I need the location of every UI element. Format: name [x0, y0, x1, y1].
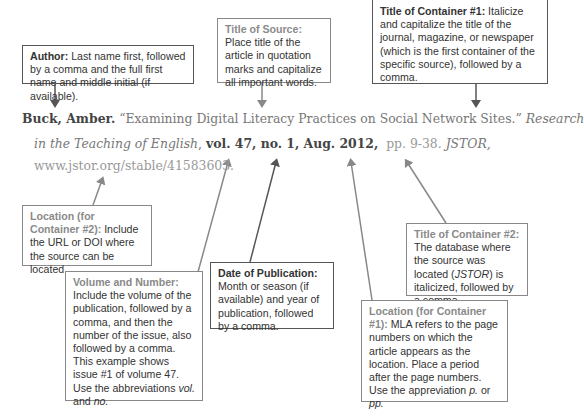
citation-container-start: Research [526, 111, 584, 126]
location-container-2-annotation: Location (for Container #2): Include the… [22, 205, 152, 266]
date-of-publication-text: Month or season (if available) and year … [218, 280, 319, 332]
title-container-1-label: Title of Container #1: [380, 5, 485, 17]
citation-container-end: in the Teaching of English [34, 136, 198, 151]
volume-abbrev: vol. [178, 382, 195, 394]
volume-number-text: Include the volume of the publication, f… [73, 289, 191, 393]
title-of-source-label: Title of Source: [225, 23, 302, 35]
number-abbrev: no. [94, 395, 109, 407]
citation-author: Buck, Amber. [22, 111, 115, 126]
jstor-italic: JSTOR [455, 268, 490, 280]
citation-pages: pp. 9-38. [378, 136, 441, 151]
citation-url: www.jstor.org/stable/41583603. [34, 158, 234, 173]
title-of-source-annotation: Title of Source: Place title of the arti… [217, 18, 331, 83]
title-container-1-annotation: Title of Container #1: Italicize and cap… [372, 0, 548, 84]
location2-arrow [93, 180, 102, 205]
date-of-publication-label: Date of Publication: [218, 267, 317, 279]
citation-volume-number: vol. 47, no. 1, [206, 136, 299, 151]
author-label: Author: [30, 50, 68, 62]
citation-comma: , [198, 136, 206, 151]
p-abbrev: p. [469, 384, 478, 396]
citation-line-1: Buck, Amber. “Examining Digital Literacy… [22, 111, 584, 126]
citation-line-2: in the Teaching of English, vol. 47, no.… [34, 136, 491, 151]
location-container-1-annotation: Location (for Container #1): MLA refers … [361, 300, 508, 402]
volume-and: and [73, 395, 94, 407]
citation-database: JSTOR, [442, 136, 491, 151]
citation-title: “Examining Digital Literacy Practices on… [115, 111, 526, 126]
date-arrow [250, 162, 276, 262]
location-or: or [478, 384, 490, 396]
citation-date: Aug. 2012, [299, 136, 378, 151]
volume-number-annotation: Volume and Number: Include the volume of… [65, 271, 203, 401]
pages-arrow [351, 162, 372, 300]
volume-arrow [198, 162, 228, 272]
title-of-source-text: Place title of the article in quotation … [225, 36, 322, 88]
title-container-2-annotation: Title of Container #2: The database wher… [406, 223, 528, 296]
citation-line-3: www.jstor.org/stable/41583603. [34, 158, 234, 173]
volume-number-label: Volume and Number: [73, 276, 179, 288]
container2-arrow [407, 162, 446, 223]
pp-abbrev: pp. [369, 397, 384, 409]
date-of-publication-annotation: Date of Publication: Month or season (if… [210, 262, 334, 329]
title-container-2-label: Title of Container #2: [414, 228, 519, 240]
author-annotation: Author: Last name first, followed by a c… [22, 45, 194, 84]
location-container-2-label: Location (for Container #2): [30, 210, 101, 235]
